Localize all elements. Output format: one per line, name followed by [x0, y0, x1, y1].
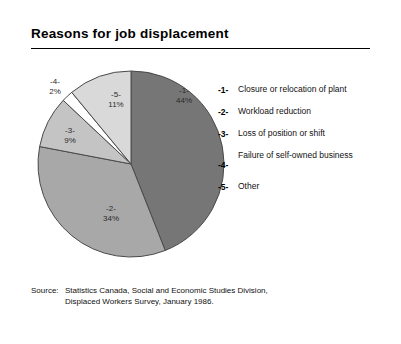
pie-label-1-key: -1- [164, 86, 204, 96]
title-divider [31, 48, 370, 49]
pie-label-3-key: -3- [52, 126, 88, 136]
pie-label-5-key: -5- [98, 90, 134, 100]
pie-label-4-key: -4- [38, 77, 72, 87]
border-edge-top [0, 0, 401, 3]
pie-label-2: -2- 34% [91, 204, 131, 224]
legend-item-5-key: -5- [218, 181, 238, 192]
border-edge-bottom [0, 335, 401, 344]
legend-item-4-key: -4- [218, 150, 238, 170]
legend-item-3[interactable]: -3- Loss of position or shift [218, 128, 374, 139]
legend-item-4-label: Failure of self-owned business [238, 150, 374, 161]
legend-item-2[interactable]: -2- Workload reduction [218, 106, 374, 117]
source-label: Source: [31, 285, 59, 296]
pie-chart: -1- 44% -2- 34% -3- 9% -4- 2% -5- 11% [36, 64, 226, 264]
chart-title: Reasons for job displacement [31, 26, 229, 41]
legend-item-5-label: Other [238, 181, 374, 192]
pie-label-2-value: 34% [91, 214, 131, 224]
pie-label-1: -1- 44% [164, 86, 204, 106]
legend-item-5[interactable]: -5- Other [218, 181, 374, 192]
source-line-1: Statistics Canada, Social and Economic S… [65, 285, 268, 296]
legend-item-3-key: -3- [218, 128, 238, 139]
legend-item-1-key: -1- [218, 84, 238, 95]
pie-label-5: -5- 11% [98, 90, 134, 110]
chart-panel: Reasons for job displacement -1- 44% -2-… [22, 22, 379, 322]
source-text: Statistics Canada, Social and Economic S… [65, 285, 268, 307]
pie-label-4-value: 2% [38, 87, 72, 97]
pie-label-5-value: 11% [98, 100, 134, 110]
border-edge-left [0, 0, 3, 344]
border-edge-right [392, 0, 401, 344]
pie-label-2-key: -2- [91, 204, 131, 214]
legend: -1- Closure or relocation of plant -2- W… [218, 84, 374, 203]
legend-item-1[interactable]: -1- Closure or relocation of plant [218, 84, 374, 95]
legend-item-2-key: -2- [218, 106, 238, 117]
figure-container: Reasons for job displacement -1- 44% -2-… [0, 0, 401, 344]
source-note: Source: Statistics Canada, Social and Ec… [31, 285, 268, 307]
legend-item-3-label: Loss of position or shift [238, 128, 374, 139]
pie-label-1-value: 44% [164, 96, 204, 106]
legend-item-2-label: Workload reduction [238, 106, 374, 117]
pie-label-3-value: 9% [52, 136, 88, 146]
source-line-2: Displaced Workers Survey, January 1986. [65, 296, 268, 307]
pie-label-4: -4- 2% [38, 77, 72, 97]
legend-item-4[interactable]: -4- Failure of self-owned business [218, 150, 374, 170]
pie-label-3: -3- 9% [52, 126, 88, 146]
legend-item-1-label: Closure or relocation of plant [238, 84, 374, 95]
